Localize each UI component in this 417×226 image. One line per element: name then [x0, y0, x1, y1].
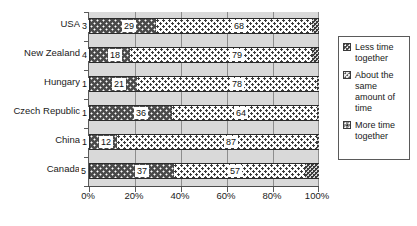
bar-value-label: 29 — [122, 20, 136, 32]
x-axis-tick-label: 100% — [305, 190, 329, 202]
bar-value-label: 1 — [80, 78, 89, 90]
chart-legend: Less time together About the same amount… — [338, 36, 410, 160]
swatch-less-time-icon — [343, 43, 351, 51]
category-label-usa: USA — [0, 19, 80, 29]
bar-value-label: 64 — [234, 107, 248, 119]
stacked-bar-chart: USA New Zealand Hungary Czech Republic C… — [0, 0, 417, 226]
gridline-20 — [135, 12, 136, 186]
legend-label: Less time together — [355, 42, 406, 64]
category-label-czech-republic: Czech Republic — [0, 106, 80, 116]
bar-value-label: 87 — [224, 136, 238, 148]
bar-segment-about-same[interactable] — [130, 47, 312, 63]
y-axis-tick — [84, 70, 89, 71]
x-axis-tick-label: 60% — [216, 190, 235, 202]
gridline-40 — [181, 12, 182, 186]
bar-value-label: 4 — [80, 49, 89, 61]
bar-segment-more-time[interactable] — [312, 18, 319, 34]
bar-value-label: 79 — [230, 49, 244, 61]
plot-inner: 29 68 3 18 79 4 21 78 1 — [89, 12, 319, 186]
legend-item-less-time[interactable]: Less time together — [343, 42, 406, 64]
bar-segment-less-time[interactable] — [89, 163, 174, 179]
y-axis-tick — [84, 128, 89, 129]
gridline-100 — [318, 12, 319, 186]
y-axis-tick — [84, 157, 89, 158]
bar-value-label: 21 — [112, 78, 126, 90]
category-axis-labels: USA New Zealand Hungary Czech Republic C… — [0, 12, 84, 186]
bar-segment-more-time[interactable] — [305, 163, 319, 179]
bar-value-label: 37 — [135, 165, 149, 177]
swatch-more-time-icon — [343, 121, 351, 129]
bar-value-label: 18 — [108, 49, 122, 61]
bar-value-label: 3 — [80, 20, 89, 32]
bar-value-label: 36 — [134, 107, 148, 119]
bar-value-label: 68 — [232, 20, 246, 32]
category-label-canada: Canada — [0, 164, 80, 174]
category-label-china: China — [0, 135, 80, 145]
bar-segment-more-time[interactable] — [317, 134, 319, 150]
bar-value-label: 1 — [80, 107, 89, 119]
legend-item-about-same[interactable]: About the same amount of time — [343, 70, 406, 114]
bar-value-label: 1 — [80, 136, 89, 148]
bar-segment-about-same[interactable] — [137, 76, 316, 92]
legend-label: About the same amount of time — [355, 70, 406, 114]
bar-segment-more-time[interactable] — [317, 105, 319, 121]
gridline-80 — [273, 12, 274, 186]
bar-segment-less-time[interactable] — [89, 105, 172, 121]
x-axis-line — [88, 186, 319, 187]
legend-item-more-time[interactable]: More time together — [343, 120, 406, 142]
legend-label: More time together — [355, 120, 406, 142]
gridline-60 — [227, 12, 228, 186]
swatch-about-same-icon — [343, 71, 351, 79]
x-axis-labels: 0% 20% 40% 60% 80% 100% — [88, 190, 318, 204]
y-axis-tick — [84, 41, 89, 42]
bar-segment-more-time[interactable] — [312, 47, 319, 63]
x-axis-tick-label: 80% — [262, 190, 281, 202]
plot-area: 29 68 3 18 79 4 21 78 1 — [88, 12, 319, 186]
y-axis-tick — [84, 12, 89, 13]
y-axis-tick — [84, 99, 89, 100]
bar-segment-about-same[interactable] — [117, 134, 317, 150]
bar-value-label: 57 — [228, 165, 242, 177]
x-axis-tick-label: 0% — [81, 190, 95, 202]
bar-value-label: 5 — [79, 165, 88, 177]
x-axis-tick-label: 40% — [170, 190, 189, 202]
bar-segment-more-time[interactable] — [317, 76, 319, 92]
x-axis-tick-label: 20% — [124, 190, 143, 202]
bar-value-label: 78 — [230, 78, 244, 90]
category-label-new-zealand: New Zealand — [0, 48, 80, 58]
bar-value-label: 12 — [99, 136, 113, 148]
category-label-hungary: Hungary — [0, 77, 80, 87]
